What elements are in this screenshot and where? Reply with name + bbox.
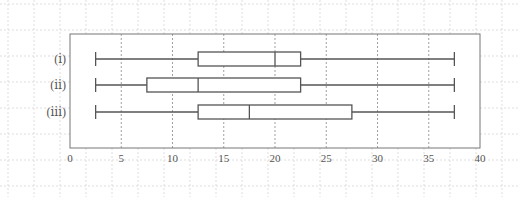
row-label: (ⅲ) bbox=[46, 105, 66, 119]
boxplot-chart: (ⅰ)(ⅱ)(ⅲ) 0510152025303540 bbox=[0, 0, 518, 197]
x-tick-label: 20 bbox=[270, 152, 282, 164]
iqr-box bbox=[198, 105, 352, 119]
x-tick-label: 10 bbox=[167, 152, 179, 164]
row-labels: (ⅰ)(ⅱ)(ⅲ) bbox=[46, 52, 66, 119]
x-tick-label: 35 bbox=[423, 152, 435, 164]
iqr-box bbox=[147, 78, 301, 92]
x-tick-label: 0 bbox=[67, 152, 73, 164]
x-tick-label: 40 bbox=[475, 152, 487, 164]
row-label: (ⅱ) bbox=[50, 78, 66, 92]
x-tick-label: 25 bbox=[321, 152, 333, 164]
row-label: (ⅰ) bbox=[54, 52, 66, 66]
x-tick-label: 30 bbox=[372, 152, 384, 164]
x-tick-label: 15 bbox=[218, 152, 230, 164]
x-axis-tick-labels: 0510152025303540 bbox=[67, 152, 486, 164]
x-tick-label: 5 bbox=[119, 152, 125, 164]
iqr-box bbox=[198, 52, 301, 66]
